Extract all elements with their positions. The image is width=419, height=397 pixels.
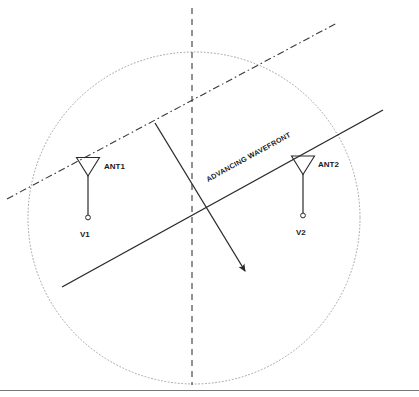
antenna2-terminal-node [301, 213, 306, 218]
antenna1-terminal-node [86, 215, 91, 220]
propagation-direction-arrow [155, 123, 245, 271]
wavefront-diagram: ANT1 V1 ANT2 V2 ADVANCING WAVEFRONT [0, 0, 419, 397]
antenna1-dipole-icon [77, 158, 100, 177]
voltage1-label: V1 [80, 230, 90, 239]
reference-circle [28, 52, 360, 384]
antenna2-group: ANT2 V2 [292, 156, 340, 237]
antenna1-group: ANT1 V1 [77, 158, 126, 240]
boresight-dashdot-line [7, 23, 337, 199]
advancing-wavefront-label: ADVANCING WAVEFRONT [205, 130, 293, 184]
voltage2-label: V2 [296, 228, 306, 237]
wavefront-line [62, 110, 383, 287]
diagram-canvas: ANT1 V1 ANT2 V2 ADVANCING WAVEFRONT [0, 0, 419, 397]
antenna2-label: ANT2 [318, 160, 339, 169]
antenna1-label: ANT1 [104, 162, 125, 171]
